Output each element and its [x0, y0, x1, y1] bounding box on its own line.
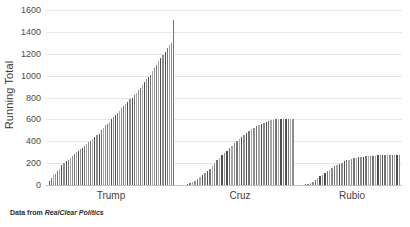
bar [291, 119, 293, 185]
y-axis-tick-labels: 16001400120010008006004002000 [18, 0, 44, 190]
y-axis-tick-label: 0 [36, 180, 41, 190]
y-axis-tick-label: 1400 [21, 27, 41, 37]
y-axis-tick-label: 400 [26, 136, 41, 146]
x-axis-line [46, 185, 402, 186]
y-axis-tick-label: 800 [26, 93, 41, 103]
y-axis-tick-label: 600 [26, 114, 41, 124]
bar [398, 155, 400, 185]
y-axis-tick-label: 1600 [21, 5, 41, 15]
y-axis-tick-label: 1000 [21, 71, 41, 81]
y-axis-title: Running Total [0, 0, 18, 190]
bar-group-trump [48, 10, 174, 185]
bar [172, 20, 174, 185]
plot-area [46, 10, 402, 185]
y-axis-title-text: Running Total [3, 61, 15, 129]
bar-group-cruz [186, 10, 294, 185]
bar-group-rubio [304, 10, 400, 185]
chart-caption: Data from RealClear Politics [10, 209, 104, 216]
y-axis-tick-label: 1200 [21, 49, 41, 59]
chart-figure: Running Total 16001400120010008006004002… [0, 0, 410, 227]
x-axis-category-label-trump: Trump [48, 190, 174, 201]
caption-source: RealClear Politics [45, 209, 104, 216]
caption-prefix: Data from [10, 209, 45, 216]
x-axis-category-label-cruz: Cruz [186, 190, 294, 201]
x-axis-category-label-rubio: Rubio [304, 190, 400, 201]
y-axis-tick-label: 200 [26, 158, 41, 168]
